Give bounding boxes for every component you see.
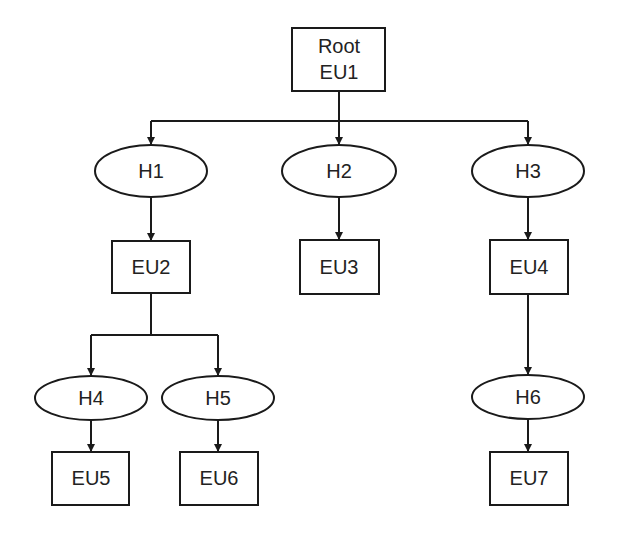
node-eu5: EU5: [52, 452, 129, 505]
node-h6: H6: [472, 375, 584, 419]
node-eu2: EU2: [112, 241, 190, 293]
node-h5: H5: [162, 376, 274, 420]
node-eu1-line1: Root: [318, 35, 361, 57]
node-h1: H1: [95, 145, 207, 197]
node-eu1-root: Root EU1: [292, 28, 385, 91]
node-h4-label: H4: [78, 387, 104, 409]
node-h6-label: H6: [515, 386, 541, 408]
node-eu6: EU6: [180, 452, 258, 505]
node-eu3: EU3: [300, 240, 379, 294]
node-eu4: EU4: [490, 240, 568, 294]
node-eu6-label: EU6: [200, 467, 239, 489]
node-h1-label: H1: [138, 160, 164, 182]
node-eu4-label: EU4: [510, 256, 549, 278]
node-eu5-label: EU5: [72, 467, 111, 489]
node-eu2-label: EU2: [132, 256, 171, 278]
node-h5-label: H5: [205, 387, 231, 409]
node-h3-label: H3: [515, 160, 541, 182]
node-eu3-label: EU3: [320, 256, 359, 278]
node-eu7: EU7: [490, 452, 568, 505]
node-h3: H3: [472, 145, 584, 197]
node-eu1-line2: EU1: [320, 61, 359, 83]
node-eu7-label: EU7: [510, 467, 549, 489]
node-h2: H2: [282, 145, 396, 197]
node-h2-label: H2: [326, 160, 352, 182]
node-h4: H4: [35, 376, 147, 420]
tree-diagram: Root EU1 H1 H2 H3 EU2 EU3 EU4 H4 H5 H6: [0, 0, 618, 537]
